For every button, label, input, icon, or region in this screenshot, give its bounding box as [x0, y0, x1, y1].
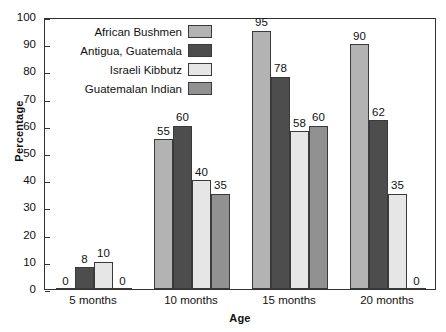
legend-item-label: African Bushmen: [94, 26, 188, 38]
y-axis-tick-label: 10: [12, 257, 36, 269]
y-axis-tick-label: 100: [12, 12, 36, 24]
bar-group: 9062350: [339, 19, 437, 289]
bar-group: 95785860: [241, 19, 339, 289]
legend-item-label: Antigua, Guatemala: [80, 45, 188, 57]
x-axis-tick-label: 10 months: [142, 294, 240, 306]
y-axis-tick-mark: [45, 264, 50, 265]
x-axis-title: Age: [44, 312, 436, 324]
bar[interactable]: [173, 126, 192, 289]
legend-item[interactable]: Israeli Kibbutz: [56, 60, 212, 79]
legend-item[interactable]: Guatemalan Indian: [56, 79, 212, 98]
bar[interactable]: [309, 126, 328, 289]
y-axis-tick-label: 70: [12, 94, 36, 106]
bar[interactable]: [56, 288, 75, 290]
bar-value-label: 10: [90, 248, 117, 260]
y-axis-tick-label: 30: [12, 203, 36, 215]
legend-item-label: Guatemalan Indian: [85, 83, 188, 95]
bar[interactable]: [192, 180, 211, 289]
legend-color-swatch: [188, 82, 212, 95]
y-axis-tick-mark: [45, 237, 50, 238]
y-axis-tick-mark: [45, 19, 50, 20]
y-axis-tick-mark: [45, 46, 50, 47]
legend: African BushmenAntigua, GuatemalaIsraeli…: [56, 22, 212, 98]
x-axis-tick-label: 5 months: [44, 294, 142, 306]
bar-chart: Percentage 0102030405060708090100 081005…: [0, 0, 446, 332]
bar-value-label: 60: [169, 112, 196, 124]
bar-value-label: 35: [207, 180, 234, 192]
y-axis-tick-label: 20: [12, 230, 36, 242]
bar[interactable]: [407, 288, 426, 290]
y-axis-tick-mark: [45, 155, 50, 156]
bar-value-label: 60: [305, 112, 332, 124]
bar[interactable]: [369, 120, 388, 289]
y-axis-tick-mark: [45, 182, 50, 183]
bar-value-label: 0: [403, 276, 430, 288]
bar[interactable]: [154, 139, 173, 289]
x-axis-tick-label: 20 months: [338, 294, 436, 306]
bar-value-label: 35: [384, 180, 411, 192]
legend-color-swatch: [188, 44, 212, 57]
y-axis-tick-label: 40: [12, 175, 36, 187]
y-axis-tick-label: 50: [12, 148, 36, 160]
legend-color-swatch: [188, 25, 212, 38]
legend-item[interactable]: Antigua, Guatemala: [56, 41, 212, 60]
bar[interactable]: [211, 194, 230, 289]
bar-value-label: 90: [346, 31, 373, 43]
bar[interactable]: [271, 77, 290, 289]
legend-item-label: Israeli Kibbutz: [110, 64, 188, 76]
bar-value-label: 95: [248, 17, 275, 29]
bar[interactable]: [290, 131, 309, 289]
y-axis-tick-label: 60: [12, 121, 36, 133]
bar-value-label: 62: [365, 107, 392, 119]
y-axis-tick-label: 90: [12, 39, 36, 51]
y-axis-tick-mark: [45, 209, 50, 210]
y-axis-tick-mark: [45, 101, 50, 102]
bar-value-label: 78: [267, 63, 294, 75]
bar-value-label: 40: [188, 167, 215, 179]
bar[interactable]: [350, 44, 369, 289]
legend-color-swatch: [188, 63, 212, 76]
x-axis-tick-label: 15 months: [240, 294, 338, 306]
y-axis-tick-label: 80: [12, 67, 36, 79]
legend-item[interactable]: African Bushmen: [56, 22, 212, 41]
y-axis-tick-label: 0: [12, 284, 36, 296]
y-axis-tick-mark: [45, 73, 50, 74]
y-axis-tick-mark: [45, 291, 50, 292]
bar[interactable]: [75, 267, 94, 289]
bar[interactable]: [113, 288, 132, 290]
y-axis-tick-mark: [45, 128, 50, 129]
y-axis-tick-labels: 0102030405060708090100: [6, 0, 36, 332]
bar-value-label: 0: [109, 276, 136, 288]
